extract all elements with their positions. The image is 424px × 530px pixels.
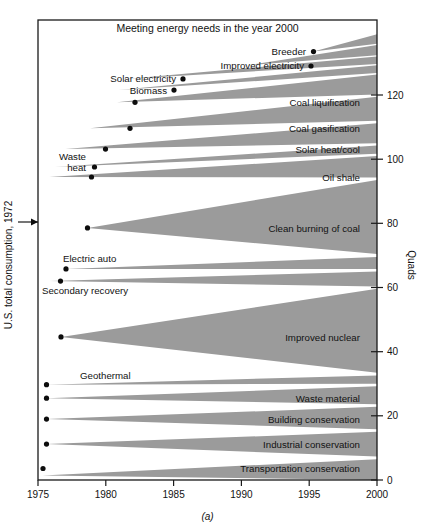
start-dot-secondary-recovery (58, 279, 63, 284)
start-dot-improved-electricity (308, 63, 313, 68)
wedge-label-clean-burning-of-coal: Clean burning of coal (268, 223, 360, 234)
wedge-label-waste-heat-line2: heat (67, 162, 86, 173)
wedge-label-industrial-conservation: Industrial conservation (263, 439, 360, 450)
y-tick-label: 100 (387, 154, 404, 165)
x-axis-ticks (38, 480, 377, 486)
wedge-label-oil-shale: Oil shale (322, 172, 360, 183)
chart-title: Meeting energy needs in the year 2000 (116, 22, 298, 34)
wedge-label-coal-liquification: Coal liquification (289, 97, 360, 108)
start-dot-oil-shale (89, 174, 94, 179)
x-tick-label-group: 1975 1980 1985 1990 1995 2000 (27, 489, 389, 500)
start-dot-industrial-conservation (44, 442, 49, 447)
energy-wedge-chart: Meeting energy needs in the year 2000 Qu… (0, 0, 424, 530)
wedge-clean-burning-of-coal (88, 180, 378, 254)
wedge-label-transportation-conservation: Transportation conservation (240, 463, 360, 474)
wedge-label-coal-gasification: Coal gasification (289, 123, 360, 134)
wedge-label-electric-auto: Electric auto (63, 253, 116, 264)
x-tick-label: 2000 (366, 489, 389, 500)
y-tick-label: 0 (387, 475, 393, 486)
start-dot-breeder (311, 49, 316, 54)
wedge-label-biomass: Biomass (130, 85, 167, 96)
wedge-label-secondary-recovery: Secondary recovery (42, 285, 128, 296)
left-annotation-label: U.S. total consumption, 1972 (3, 200, 14, 329)
start-dot-electric-auto (63, 266, 68, 271)
y-tick-label: 40 (387, 346, 399, 357)
y-axis-title: Quads (406, 250, 417, 279)
start-dot-coal-liquification (132, 100, 137, 105)
x-tick-label: 1975 (27, 489, 50, 500)
start-dot-solar-electricity (180, 76, 185, 81)
y-tick-label: 80 (387, 218, 399, 229)
wedge-label-geothermal: Geothermal (80, 370, 131, 381)
x-tick-label: 1980 (95, 489, 118, 500)
wedge-label-building-conservation: Building conservation (268, 414, 360, 425)
wedge-label-solar-electricity: Solar electricity (110, 73, 176, 84)
start-dot-coal-gasification (127, 126, 132, 131)
wedge-label-improved-electricity: Improved electricity (221, 60, 305, 71)
x-tick-label: 1995 (298, 489, 321, 500)
start-dot-building-conservation (44, 417, 49, 422)
wedge-label-improved-nuclear: Improved nuclear (285, 332, 361, 343)
figure-canvas: Meeting energy needs in the year 2000 Qu… (0, 0, 424, 530)
wedge-label-solar-heat-cool: Solar heat/cool (295, 144, 360, 155)
wedge-label-waste-material: Waste material (296, 393, 360, 404)
figure-caption: (a) (201, 511, 213, 522)
start-dot-geothermal (44, 382, 49, 387)
y-tick-label: 20 (387, 410, 399, 421)
start-dot-improved-nuclear (58, 334, 63, 339)
us-total-consumption-arrow (18, 219, 38, 226)
x-tick-label: 1990 (230, 489, 253, 500)
x-tick-label: 1985 (162, 489, 185, 500)
wedge-label-breeder: Breeder (272, 46, 307, 57)
wedge-label-waste-heat-line1: Waste (59, 151, 86, 162)
start-dot-waste-heat (92, 164, 97, 169)
y-tick-label: 60 (387, 282, 399, 293)
y-tick-label-group: 0 20 40 60 80 100 120 (387, 90, 404, 486)
start-dot-clean-burning-of-coal (85, 225, 90, 230)
start-dot-solar-heat-cool (103, 147, 108, 152)
start-dot-transportation-conservation (40, 466, 45, 471)
start-dot-waste-material (44, 396, 49, 401)
start-dot-biomass (171, 88, 176, 93)
y-tick-label: 120 (387, 90, 404, 101)
